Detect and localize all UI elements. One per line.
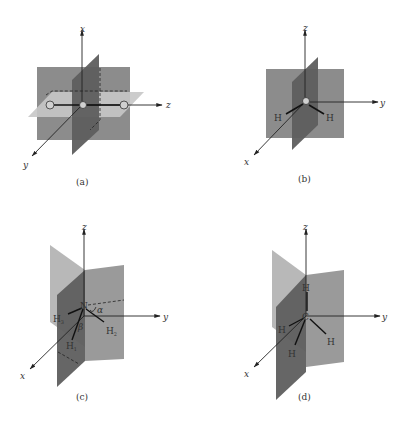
- nh3-symmetry-diagram: N H3 H1 H2 α β z y x (c): [0, 212, 206, 425]
- nitrogen-label: N: [80, 301, 88, 311]
- carbon-atom: [80, 102, 87, 109]
- carbon-label: C: [302, 312, 309, 322]
- sigma-plane-mid: [306, 270, 344, 367]
- panel-c: N H3 H1 H2 α β z y x (c): [0, 212, 206, 424]
- hydrogen-label: H: [326, 113, 334, 123]
- hydrogen-label: H: [274, 113, 282, 123]
- axis-label-z: z: [81, 222, 87, 232]
- h2o-symmetry-diagram: H H z y x (b): [206, 0, 413, 212]
- caption-b: (b): [298, 174, 311, 184]
- caption-c: (c): [76, 392, 88, 402]
- hydrogen-label: H: [327, 337, 335, 347]
- hydrogen-label: H: [302, 283, 310, 293]
- panel-a: x z y (a): [0, 0, 206, 212]
- co2-symmetry-diagram: x z y (a): [0, 0, 206, 212]
- oxygen-atom: [120, 101, 128, 109]
- hydrogen-label: H: [278, 325, 286, 335]
- axis-label-y: y: [22, 160, 29, 170]
- axis-label-z: z: [302, 222, 308, 232]
- ch4-symmetry-diagram: C H H H H z y x (d): [206, 212, 413, 425]
- axis-label-y: y: [381, 312, 388, 322]
- axis-label-z: z: [165, 100, 171, 110]
- beta-label: β: [77, 322, 83, 332]
- panel-b: H H z y x (b): [206, 0, 412, 212]
- panel-d: C H H H H z y x (d): [206, 212, 412, 424]
- axis-label-x: x: [20, 371, 25, 381]
- caption-a: (a): [76, 177, 88, 187]
- axis-label-x: x: [244, 157, 249, 167]
- caption-d: (d): [298, 392, 311, 402]
- hydrogen-label: H: [288, 349, 296, 359]
- axis-label-y: y: [162, 312, 169, 322]
- axis-label-z: z: [302, 23, 308, 33]
- axis-label-x: x: [80, 24, 85, 34]
- oxygen-atom: [303, 98, 310, 105]
- axis-label-y: y: [379, 98, 386, 108]
- oxygen-atom: [46, 101, 54, 109]
- axis-label-x: x: [244, 369, 249, 379]
- alpha-label: α: [97, 305, 103, 315]
